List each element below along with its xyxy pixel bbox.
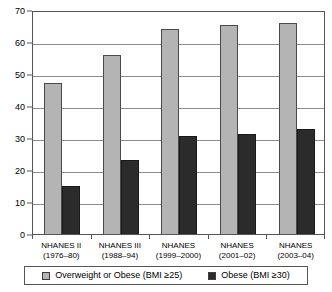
- x-axis-label-line1: NHANES II: [32, 241, 91, 251]
- bar-overweight-or-obese: [103, 55, 121, 234]
- bar-group: [267, 12, 326, 234]
- y-axis-tick-label: 30: [15, 135, 25, 144]
- x-axis-tick-mark: [91, 235, 92, 239]
- bar-obese: [238, 134, 256, 234]
- legend-item-obese: Obese (BMI ≥30): [208, 271, 289, 280]
- x-axis-tick-label: NHANES(2001–02): [208, 241, 267, 261]
- x-axis-tick-mark: [324, 235, 325, 239]
- x-axis-tick-label: NHANES(2003–04): [266, 241, 325, 261]
- legend-item-label: Overweight or Obese (BMI ≥25): [55, 271, 182, 280]
- y-axis-tick-label: 20: [15, 167, 25, 176]
- x-axis-label-line2: (1988–94): [91, 251, 150, 261]
- x-axis-label-line2: (1976–80): [32, 251, 91, 261]
- legend-item-label: Obese (BMI ≥30): [221, 271, 289, 280]
- bar-chart: 010203040506070 NHANES II(1976–80)NHANES…: [0, 0, 332, 292]
- x-axis-label-line2: (2003–04): [266, 251, 325, 261]
- x-axis: NHANES II(1976–80)NHANES III(1988–94)NHA…: [32, 235, 325, 261]
- bar-overweight-or-obese: [279, 23, 297, 234]
- x-axis-tick-label: NHANES III(1988–94): [91, 241, 150, 261]
- bar-obese: [297, 129, 315, 234]
- bar-overweight-or-obese: [220, 25, 238, 234]
- y-axis-tick-label: 60: [15, 39, 25, 48]
- bar-group: [209, 12, 268, 234]
- chart-legend: Overweight or Obese (BMI ≥25) Obese (BMI…: [24, 266, 308, 285]
- bar-group: [33, 12, 92, 234]
- x-axis-label-line1: NHANES: [208, 241, 267, 251]
- bar-group: [92, 12, 151, 234]
- x-axis-label-line1: NHANES: [149, 241, 208, 251]
- x-axis-label-line1: NHANES: [266, 241, 325, 251]
- y-axis-tick-label: 40: [15, 103, 25, 112]
- y-axis-tick-label: 10: [15, 199, 25, 208]
- y-axis: 010203040506070: [0, 0, 32, 246]
- plot-area: [32, 11, 325, 235]
- x-axis-tick-label: NHANES II(1976–80): [32, 241, 91, 261]
- x-axis-tick-mark: [208, 235, 209, 239]
- x-axis-tick-mark: [266, 235, 267, 239]
- x-axis-label-line2: (1999–2000): [149, 251, 208, 261]
- x-axis-tick-mark: [32, 235, 33, 239]
- y-axis-tick-label: 0: [20, 231, 25, 240]
- x-axis-label-line2: (2001–02): [208, 251, 267, 261]
- light-gray-square-icon: [42, 272, 50, 280]
- bar-series-container: [33, 12, 324, 234]
- y-axis-tick-label: 50: [15, 71, 25, 80]
- bar-overweight-or-obese: [44, 83, 62, 234]
- y-axis-tick-label: 70: [15, 7, 25, 16]
- bar-overweight-or-obese: [161, 29, 179, 234]
- x-axis-tick-label: NHANES(1999–2000): [149, 241, 208, 261]
- dark-gray-square-icon: [208, 272, 216, 280]
- bar-group: [150, 12, 209, 234]
- x-axis-label-line1: NHANES III: [91, 241, 150, 251]
- bar-obese: [179, 136, 197, 234]
- x-axis-tick-mark: [149, 235, 150, 239]
- bar-obese: [121, 160, 139, 234]
- bar-obese: [62, 186, 80, 234]
- legend-item-overweight-or-obese: Overweight or Obese (BMI ≥25): [42, 271, 182, 280]
